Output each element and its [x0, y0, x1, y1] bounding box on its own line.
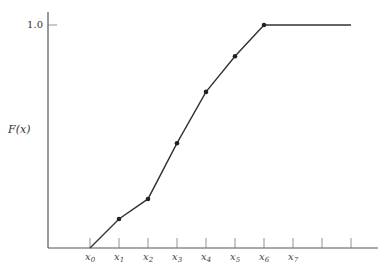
x-tick-label: x3	[172, 251, 183, 264]
data-point	[233, 54, 238, 59]
data-points	[117, 23, 267, 222]
x-tick-label: x7	[288, 251, 299, 264]
data-point	[262, 23, 267, 28]
y-axis-label: F(x)	[7, 123, 30, 136]
cdf-chart: 1.0 F(x) x0x1x2x3x4x5x6x7	[0, 0, 389, 271]
x-tick-label: x0	[85, 251, 96, 264]
x-tick-label: x2	[143, 251, 154, 264]
x-tick-label: x1	[114, 251, 124, 264]
data-point	[204, 90, 209, 95]
x-tick-labels: x0x1x2x3x4x5x6x7	[85, 251, 299, 264]
cdf-curve	[90, 25, 351, 248]
x-tick-label: x6	[259, 251, 270, 264]
x-ticks	[90, 238, 351, 248]
x-tick-label: x4	[201, 251, 211, 264]
y-tick-label-1: 1.0	[27, 19, 43, 30]
data-point	[146, 197, 151, 202]
data-point	[117, 217, 122, 222]
x-tick-label: x5	[230, 251, 241, 264]
data-point	[175, 141, 180, 146]
